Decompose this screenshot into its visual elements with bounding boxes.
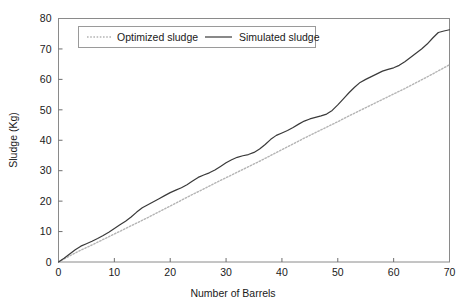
y-tick-label-0: 0 xyxy=(46,256,52,268)
y-tick-label-70: 70 xyxy=(40,43,52,55)
y-tick-label-80: 80 xyxy=(40,12,52,24)
x-tick-label-60: 60 xyxy=(388,266,400,278)
y-tick-label-10: 10 xyxy=(40,225,52,237)
x-axis-title: Number of Barrels xyxy=(190,287,275,299)
y-tick-label-60: 60 xyxy=(40,73,52,85)
x-tick-label-50: 50 xyxy=(332,266,344,278)
y-tick-label-40: 40 xyxy=(40,134,52,146)
chart-container: 01020304050607080 010203040506070 Number… xyxy=(0,0,466,305)
y-tick-label-20: 20 xyxy=(40,195,52,207)
x-tick-label-0: 0 xyxy=(56,266,62,278)
chart-legend: Optimized sludge Simulated sludge xyxy=(79,27,320,48)
sludge-line-chart: 01020304050607080 010203040506070 Number… xyxy=(0,0,466,305)
y-tick-label-30: 30 xyxy=(40,164,52,176)
x-tick-label-40: 40 xyxy=(276,266,288,278)
x-tick-label-30: 30 xyxy=(220,266,232,278)
legend-label-optimized: Optimized sludge xyxy=(117,31,198,43)
x-tick-label-20: 20 xyxy=(164,266,176,278)
y-axis-title: Sludge (Kg) xyxy=(7,112,19,167)
legend-label-simulated: Simulated sludge xyxy=(239,31,320,43)
x-tick-label-70: 70 xyxy=(444,266,456,278)
x-tick-label-10: 10 xyxy=(109,266,121,278)
y-tick-label-50: 50 xyxy=(40,104,52,116)
